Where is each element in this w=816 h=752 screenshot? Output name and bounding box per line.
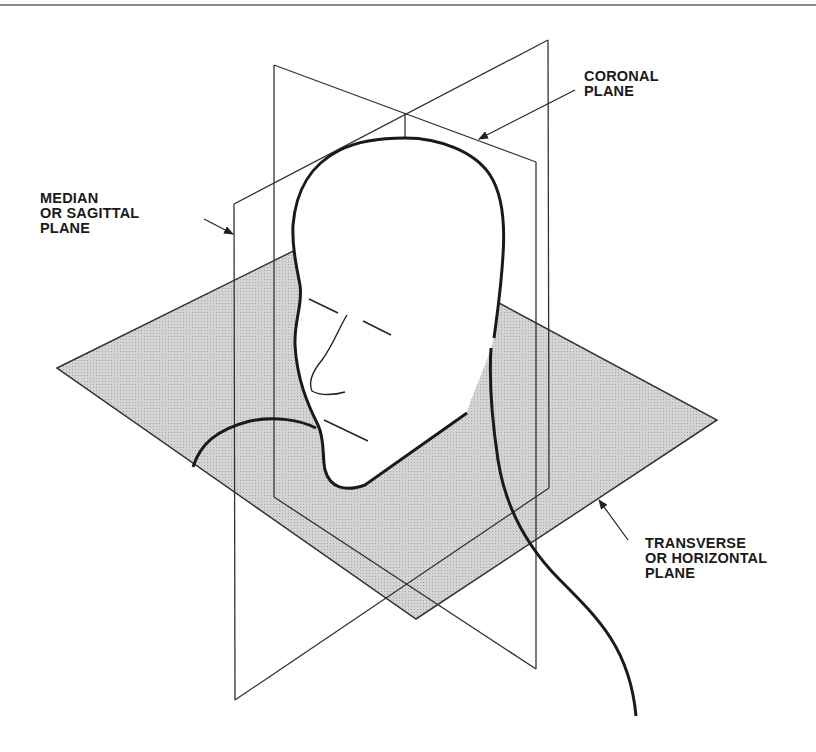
label-line: PLANE <box>584 84 659 99</box>
median-arrow <box>204 219 233 234</box>
transverse-arrow <box>599 500 628 540</box>
label-line: OR HORIZONTAL <box>645 551 767 566</box>
label-line: OR SAGITTAL <box>40 206 139 221</box>
label-line: TRANSVERSE <box>645 536 767 551</box>
transverse-plane-label: TRANSVERSE OR HORIZONTAL PLANE <box>645 536 767 581</box>
label-line: PLANE <box>40 221 139 236</box>
label-line: MEDIAN <box>40 191 139 206</box>
coronal-plane-label: CORONAL PLANE <box>584 69 659 99</box>
anatomical-planes-diagram <box>0 0 816 752</box>
label-line: CORONAL <box>584 69 659 84</box>
label-line: PLANE <box>645 566 767 581</box>
coronal-arrow <box>479 90 575 139</box>
median-sagittal-plane-label: MEDIAN OR SAGITTAL PLANE <box>40 191 139 236</box>
